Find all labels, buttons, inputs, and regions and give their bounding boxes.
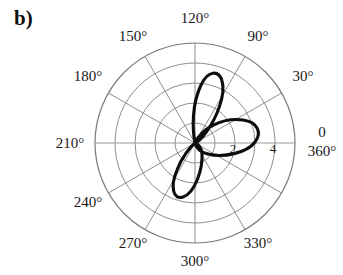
angle-label-360: 360° xyxy=(308,143,337,159)
polar-chart: 2 4 120° 150° 90° 180° 30° 210° 0 360° 2… xyxy=(0,0,343,275)
angle-label-30: 30° xyxy=(293,68,314,84)
angle-label-120: 150° xyxy=(119,28,148,44)
angle-label-150: 180° xyxy=(74,68,103,84)
angle-label-300: 330° xyxy=(244,235,273,251)
polar-chart-svg: 2 4 120° 150° 90° 180° 30° 210° 0 360° 2… xyxy=(0,0,343,275)
angle-label-210: 240° xyxy=(74,194,103,210)
angle-label-180: 210° xyxy=(56,135,85,151)
angle-label-240: 270° xyxy=(119,235,148,251)
angle-label-60: 90° xyxy=(248,28,269,44)
radial-tick-label-4: 4 xyxy=(270,141,277,156)
angle-label-0: 0 xyxy=(318,124,326,140)
angle-label-90: 120° xyxy=(181,10,210,26)
angle-label-270: 300° xyxy=(181,253,210,269)
radial-tick-label-2: 2 xyxy=(230,141,237,156)
